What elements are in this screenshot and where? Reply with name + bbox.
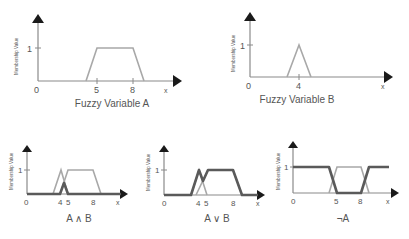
result-curve-min <box>27 183 121 194</box>
tick-label-one: 1 <box>155 166 160 175</box>
x-variable-label: x <box>386 198 390 205</box>
y-axis-label: Membership Value <box>9 152 14 190</box>
x-variable-label: x <box>116 199 120 206</box>
chart-not-a: Membership Value 1 0 5 8 x ¬A <box>276 141 399 224</box>
y-axis-arrow-icon <box>22 145 32 152</box>
y-axis-label: Membership Value <box>231 34 236 72</box>
caption-b: Fuzzy Variable B <box>260 94 335 105</box>
membership-curve-b <box>287 45 311 77</box>
tick-label-8: 8 <box>231 199 236 208</box>
tick-label-5: 5 <box>66 198 71 207</box>
chart-a-and-b: Membership Value 1 0 4 5 8 x A ∧ B <box>9 145 128 224</box>
y-axis-label: Membership Value <box>14 37 19 75</box>
tick-label-one: 1 <box>240 41 245 51</box>
x-variable-label: x <box>256 200 260 207</box>
tick-label-4: 4 <box>58 198 63 207</box>
y-axis-arrow-icon <box>288 141 298 148</box>
x-axis-arrow-icon <box>120 189 128 199</box>
y-axis-label: Membership Value <box>146 153 151 191</box>
x-axis-arrow-icon <box>173 75 182 87</box>
y-axis-arrow-icon <box>159 145 169 152</box>
y-axis-arrow-icon <box>32 14 44 23</box>
membership-curve-a <box>86 48 144 81</box>
tick-label-origin: 0 <box>162 199 167 208</box>
fuzzy-operations-diagram: Membership Value 1 0 5 8 x Fuzzy Variabl… <box>0 0 409 239</box>
tick-label-8: 8 <box>130 85 135 95</box>
tick-label-5: 5 <box>94 85 99 95</box>
tick-label-origin: 0 <box>246 81 251 91</box>
y-axis-label: Membership Value <box>276 152 281 190</box>
result-curve-complement <box>293 167 389 193</box>
x-axis-arrow-icon <box>257 190 265 200</box>
tick-label-8: 8 <box>358 197 363 206</box>
tick-label-origin: 0 <box>291 197 296 206</box>
tick-label-one: 1 <box>18 166 23 175</box>
y-axis-arrow-icon <box>244 12 256 21</box>
result-curve-max <box>164 170 258 195</box>
x-variable-label: x <box>164 87 168 94</box>
caption-not-a: ¬A <box>337 213 350 224</box>
tick-label-4: 4 <box>296 81 301 91</box>
caption-a-and-b: A ∧ B <box>66 213 92 224</box>
tick-label-one: 1 <box>284 163 289 172</box>
tick-label-5: 5 <box>334 197 339 206</box>
chart-fuzzy-variable-a: Membership Value 1 0 5 8 x Fuzzy Variabl… <box>14 14 182 109</box>
tick-label-origin: 0 <box>34 85 39 95</box>
x-variable-label: x <box>381 83 385 90</box>
chart-fuzzy-variable-b: Membership Value 1 0 4 x Fuzzy Variable … <box>231 12 393 105</box>
caption-a-or-b: A ∨ B <box>204 213 230 224</box>
x-axis-arrow-icon <box>391 188 399 198</box>
chart-a-or-b: Membership Value 1 0 4 5 8 x A ∨ B <box>146 145 265 224</box>
tick-label-origin: 0 <box>24 198 29 207</box>
tick-label-one: 1 <box>27 44 32 54</box>
tick-label-8: 8 <box>91 198 96 207</box>
caption-a: Fuzzy Variable A <box>75 98 150 109</box>
tick-label-4: 4 <box>196 199 201 208</box>
tick-label-5: 5 <box>204 199 209 208</box>
x-axis-arrow-icon <box>384 71 393 83</box>
